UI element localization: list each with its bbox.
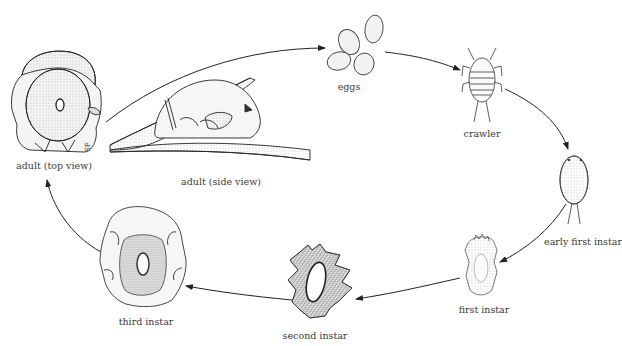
- label-third-instar: third instar: [119, 316, 174, 327]
- label-crawler: crawler: [464, 128, 501, 139]
- arrow-early-to-first: [500, 204, 566, 262]
- arrow-crawler-to-early: [505, 89, 568, 149]
- arrow-eggs-to-crawler: [385, 52, 460, 70]
- second-instar-illustration: [288, 244, 352, 318]
- early-first-instar-illustration: [560, 156, 588, 224]
- label-adult-top-view: adult (top view): [16, 160, 92, 171]
- crawler-illustration: [462, 48, 502, 122]
- diagram-drawing: SF: [0, 0, 622, 346]
- first-instar-illustration: [465, 234, 497, 295]
- third-instar-illustration: [100, 207, 186, 307]
- artist-signature: SF: [84, 142, 92, 152]
- arrow-second-to-third: [186, 286, 292, 300]
- adult-top-view-illustration: SF: [11, 51, 101, 152]
- label-second-instar: second instar: [283, 330, 348, 341]
- arrow-first-to-second: [356, 278, 460, 299]
- label-early-first-instar: early first instar: [544, 236, 622, 247]
- arrow-third-to-adult: [47, 180, 101, 252]
- label-first-instar: first instar: [459, 304, 510, 315]
- life-cycle-diagram: SF: [0, 0, 622, 346]
- eggs-illustration: [325, 14, 385, 78]
- adult-side-view-illustration: [110, 78, 310, 160]
- label-adult-side-view: adult (side view): [181, 176, 261, 187]
- label-eggs: eggs: [338, 81, 361, 92]
